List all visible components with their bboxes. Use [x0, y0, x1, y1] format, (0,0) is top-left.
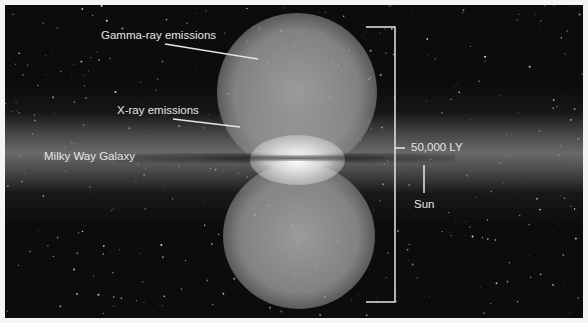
- gamma-ray-label: Gamma-ray emissions: [101, 29, 216, 41]
- x-ray-label: X-ray emissions: [117, 104, 199, 116]
- scale-label: 50,000 LY: [411, 141, 463, 153]
- gamma-ray-pointer: [165, 44, 258, 59]
- galaxy-label: Milky Way Galaxy: [44, 150, 135, 162]
- x-ray-pointer: [173, 119, 240, 127]
- scale-bracket: [366, 27, 395, 302]
- sun-label: Sun: [414, 198, 434, 210]
